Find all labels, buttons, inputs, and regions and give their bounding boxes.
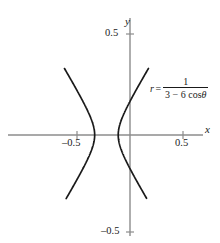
- equation-lhs: r: [150, 83, 154, 94]
- x-axis-label: x: [205, 124, 210, 135]
- y-tick-label-neg-0-5: –0.5: [101, 226, 119, 237]
- equation-theta-symbol: θ: [202, 89, 207, 100]
- equation-equals-sign: =: [155, 83, 161, 94]
- hyperbola-right-branch: [64, 69, 94, 199]
- equation-denominator: 3 − 6 cosθ: [163, 87, 208, 100]
- x-tick-label-pos-0-5: 0.5: [175, 138, 188, 149]
- equation-denominator-prefix: 3 − 6 cos: [165, 89, 201, 100]
- x-tick-label-neg-0-5: –0.5: [62, 138, 80, 149]
- equation-fraction: 1 3 − 6 cosθ: [163, 76, 208, 100]
- y-tick-label-pos-0-5: 0.5: [105, 28, 118, 39]
- y-axis-label: y: [125, 16, 130, 27]
- hyperbola-left-branch: [118, 68, 148, 198]
- equation-numerator: 1: [179, 76, 192, 87]
- polar-hyperbola-figure: y x –0.5 0.5 0.5 –0.5 r = 1 3 − 6 cosθ: [0, 0, 220, 243]
- polar-equation-annotation: r = 1 3 − 6 cosθ: [150, 76, 208, 100]
